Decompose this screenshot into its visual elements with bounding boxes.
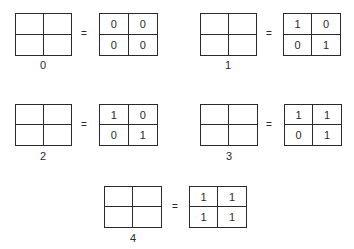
value-grid: 1 0 0 1 — [283, 13, 341, 56]
grid-cell: 1 — [218, 207, 246, 227]
equals-sign: = — [81, 120, 87, 130]
grid-cell — [133, 187, 161, 207]
grid-cell: 1 — [285, 105, 313, 125]
grid-cell: 0 — [100, 14, 129, 35]
grid-cell — [16, 105, 44, 125]
grid-cell: 0 — [100, 35, 129, 56]
grid-cell — [44, 105, 72, 125]
grid-cell: 1 — [218, 187, 246, 207]
grid-cell — [201, 125, 229, 145]
equals-sign: = — [266, 29, 272, 39]
grid-cell: 1 — [129, 125, 158, 145]
grid-cell — [229, 35, 257, 56]
grid-cell — [16, 125, 44, 145]
value-grid: 0 0 0 0 — [99, 13, 158, 56]
value-grid: 1 1 1 1 — [189, 186, 247, 228]
equals-sign: = — [266, 120, 272, 130]
grid-cell: 1 — [313, 125, 341, 145]
diagram-label: 4 — [123, 232, 143, 244]
grid-cell — [44, 35, 72, 56]
diagram-label: 3 — [219, 150, 239, 162]
value-grid: 1 1 0 1 — [284, 104, 342, 146]
grid-cell: 1 — [100, 105, 129, 125]
grid-cell: 1 — [190, 187, 218, 207]
empty-grid — [15, 13, 72, 56]
grid-cell — [229, 105, 257, 125]
grid-cell — [105, 187, 133, 207]
grid-cell: 0 — [129, 105, 158, 125]
grid-cell — [44, 14, 72, 35]
grid-cell: 0 — [284, 35, 312, 56]
equals-sign: = — [81, 29, 87, 39]
value-grid: 1 0 0 1 — [99, 104, 158, 146]
grid-cell — [201, 35, 229, 56]
grid-cell — [16, 35, 44, 56]
grid-cell: 0 — [312, 14, 340, 35]
empty-grid — [200, 13, 257, 56]
empty-grid — [200, 104, 258, 146]
grid-cell — [229, 14, 257, 35]
grid-cell — [44, 125, 72, 145]
diagram-label: 1 — [218, 59, 238, 71]
grid-cell: 1 — [190, 207, 218, 227]
grid-cell — [201, 105, 229, 125]
grid-cell — [105, 207, 133, 227]
diagram-label: 0 — [33, 59, 53, 71]
grid-cell: 0 — [285, 125, 313, 145]
grid-cell: 1 — [284, 14, 312, 35]
grid-cell: 0 — [100, 125, 129, 145]
grid-cell: 1 — [313, 105, 341, 125]
empty-grid — [15, 104, 72, 146]
grid-cell — [16, 14, 44, 35]
grid-cell: 0 — [129, 14, 158, 35]
equals-sign: = — [172, 202, 178, 212]
grid-cell — [229, 125, 257, 145]
diagram-label: 2 — [33, 150, 53, 162]
empty-grid — [104, 186, 162, 228]
grid-cell: 0 — [129, 35, 158, 56]
grid-cell — [201, 14, 229, 35]
grid-cell — [133, 207, 161, 227]
grid-cell: 1 — [312, 35, 340, 56]
